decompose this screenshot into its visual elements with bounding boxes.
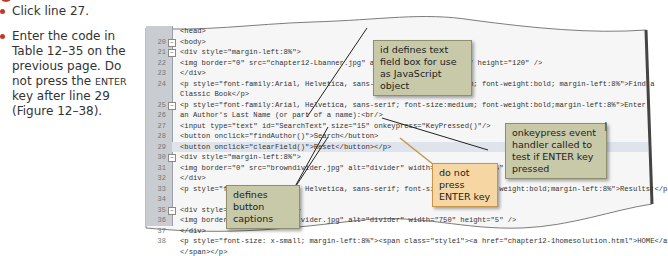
- fold-toggle-icon[interactable]: −: [168, 39, 176, 47]
- line-number: 32: [144, 173, 166, 184]
- code-text: <input type="text" id="SearchText" size=…: [180, 121, 491, 132]
- code-text: <button onclick="findAuthor()">Search</b…: [180, 131, 378, 142]
- fold-toggle-icon[interactable]: −: [168, 102, 176, 110]
- callout-text: onkeypress event handler called to test …: [512, 127, 596, 174]
- code-text: <img border="0" src="chapter12-Lbanner.j…: [180, 58, 542, 69]
- line-number: 36: [144, 215, 166, 226]
- line-number: 37: [144, 226, 166, 237]
- step-text-b: key after line 29 (Figure 12–38).: [12, 89, 110, 118]
- callout-text: defines button captions: [233, 189, 273, 224]
- callout-button-captions: defines button captions: [226, 185, 300, 229]
- fold-toggle-icon[interactable]: −: [168, 207, 176, 215]
- callout-id-defines: id defines text field box for use as Jav…: [373, 40, 472, 96]
- step-text: Click line 27.: [12, 4, 89, 18]
- line-number: 20: [144, 37, 166, 48]
- code-line[interactable]: <head>: [172, 26, 648, 37]
- code-text: Classic Book</p>: [180, 89, 249, 100]
- code-line[interactable]: 38<p style="font-size: x-small; margin-l…: [172, 236, 648, 247]
- code-text: <button onclick="clearField()">Reset</bu…: [180, 142, 391, 153]
- code-text: <body>: [180, 37, 206, 48]
- code-text: </span></p>: [180, 247, 227, 256]
- text-cursor-icon: I: [604, 120, 608, 134]
- code-line[interactable]: 26an Author's Last Name (or part of a na…: [172, 110, 648, 121]
- code-text: an Author's Last Name (or part of a name…: [180, 110, 383, 121]
- line-number: 38: [144, 236, 166, 247]
- line-number: 24: [144, 79, 166, 90]
- code-text: </div>: [180, 173, 206, 184]
- line-number: 35: [144, 205, 166, 216]
- step-instructions: Click line 27. Enter the code in Table 1…: [0, 0, 130, 128]
- line-number: 25: [144, 100, 166, 111]
- line-number: 34: [144, 194, 166, 205]
- bullet-icon: [0, 9, 5, 14]
- code-text: <head>: [180, 26, 206, 37]
- code-text: <div style="margin-left:8%">: [180, 47, 301, 58]
- callout-do-not-press: do not press ENTER key: [432, 163, 498, 207]
- code-text: </div>: [180, 226, 206, 237]
- line-number: 22: [144, 58, 166, 69]
- code-text: </div>: [180, 68, 206, 79]
- line-number: 31: [144, 163, 166, 174]
- line-number: 21: [144, 47, 166, 58]
- code-text: <p style="font-size: x-small; margin-lef…: [180, 236, 668, 247]
- line-number: 27: [144, 121, 166, 132]
- line-number: 30: [144, 152, 166, 163]
- callout-text: id defines text field box for use as Jav…: [380, 44, 457, 91]
- line-number: 26: [144, 110, 166, 121]
- step-text-key: ENTER: [95, 76, 127, 87]
- step-enter-code: Enter the code in Table 12–35 on the pre…: [0, 29, 130, 119]
- fold-toggle-icon[interactable]: −: [168, 49, 176, 57]
- code-text: <div style="margin-left:8%">: [180, 152, 301, 163]
- line-number: 28: [144, 131, 166, 142]
- callout-text: do not press ENTER key: [439, 167, 490, 202]
- step-badge: [0, 0, 12, 2]
- bullet-icon: [0, 34, 5, 39]
- callout-onkeypress: onkeypress event handler called to test …: [505, 123, 607, 179]
- code-line[interactable]: </span></p>: [172, 247, 648, 256]
- line-number: 33: [144, 184, 166, 195]
- step-click-line: Click line 27.: [0, 4, 130, 19]
- line-number: 23: [144, 68, 166, 79]
- line-number: 29: [144, 142, 166, 153]
- fold-toggle-icon[interactable]: −: [168, 154, 176, 162]
- code-line[interactable]: 25−<p style="font-family:Arial, Helvetic…: [172, 100, 648, 111]
- code-text: <p style="font-family:Arial, Helvetica, …: [180, 100, 646, 111]
